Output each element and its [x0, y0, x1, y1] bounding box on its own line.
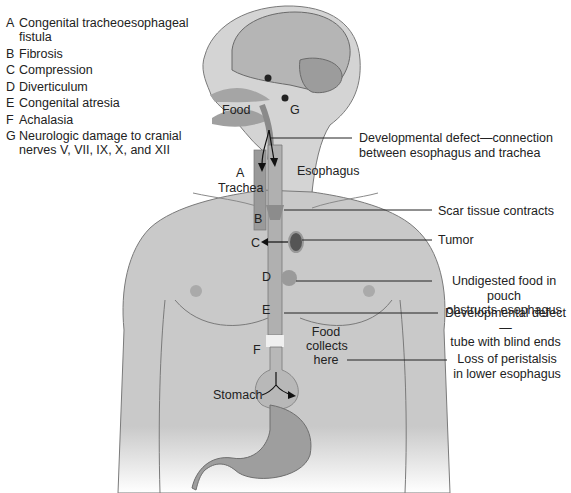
label-e: E — [262, 303, 270, 317]
legend-item-d: DDiverticulum — [6, 80, 196, 94]
left-nipple — [190, 285, 202, 297]
annotation-atresia: Developmental defect— tube with blind en… — [443, 306, 568, 350]
label-b: B — [254, 212, 262, 226]
legend-item-a: ACongenital tracheoesophageal fistula — [6, 16, 196, 44]
tumor — [289, 232, 303, 252]
right-nipple — [363, 285, 375, 297]
legend-item-c: CCompression — [6, 63, 196, 77]
annotation-scar: Scar tissue contracts — [438, 204, 554, 219]
label-f: F — [253, 343, 261, 357]
label-food-collects: Food collects here — [306, 325, 346, 367]
legend-item-g: GNeurologic damage to cranial nerves V, … — [6, 129, 196, 157]
label-food: Food — [222, 103, 251, 117]
label-c: C — [251, 236, 260, 250]
legend: ACongenital tracheoesophageal fistula BF… — [6, 16, 196, 160]
label-stomach: Stomach — [213, 388, 262, 402]
label-d: D — [262, 270, 271, 284]
annotation-fistula: Developmental defect—connection between … — [359, 131, 553, 160]
nerve-dot-1 — [265, 75, 272, 82]
legend-item-f: FAchalasia — [6, 113, 196, 127]
annotation-peristalsis: Loss of peristalsis in lower esophagus — [449, 352, 565, 381]
label-a: A — [236, 166, 244, 180]
legend-item-e: ECongenital atresia — [6, 96, 196, 110]
annotation-tumor: Tumor — [438, 233, 474, 248]
label-esophagus: Esophagus — [297, 164, 360, 178]
label-trachea: Trachea — [218, 181, 263, 195]
legend-item-b: BFibrosis — [6, 47, 196, 61]
diverticulum — [281, 270, 297, 286]
atresia-gap — [266, 335, 284, 347]
label-g: G — [290, 103, 300, 117]
nerve-dot-2 — [282, 95, 289, 102]
